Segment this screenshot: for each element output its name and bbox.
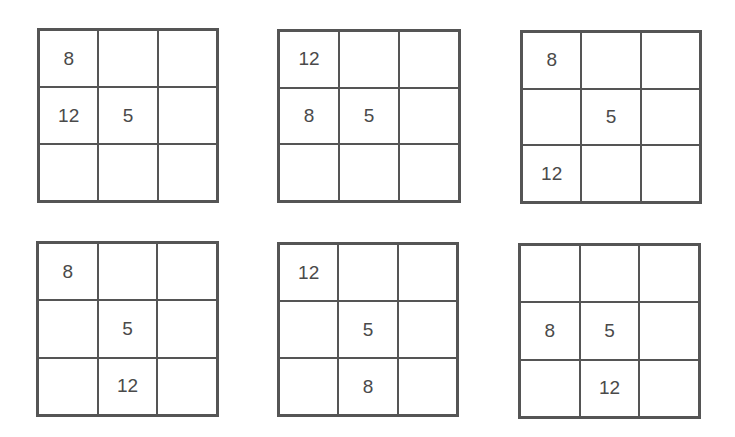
grid-cell — [639, 245, 699, 302]
grid-cell — [399, 88, 459, 145]
grid-cell: 12 — [580, 360, 640, 417]
grid-cell: 5 — [98, 300, 158, 357]
grid-cell: 12 — [98, 358, 158, 415]
grid-cell: 12 — [279, 31, 339, 88]
grid-cell — [399, 144, 459, 201]
grid-cell — [639, 302, 699, 359]
grid-cell — [520, 245, 580, 302]
grid-cell: 5 — [339, 88, 399, 145]
grid-cell: 8 — [520, 302, 580, 359]
grid-cell: 5 — [580, 302, 640, 359]
grid-1: 8125 — [37, 28, 219, 203]
grid-cell — [157, 243, 217, 300]
grid-cell — [522, 89, 581, 146]
grid-3: 8512 — [520, 30, 702, 204]
grid-5: 1258 — [277, 242, 459, 417]
grid-cell: 5 — [338, 301, 397, 358]
grid-6: 8512 — [518, 243, 701, 419]
grid-cell — [279, 144, 339, 201]
grid-cell — [339, 144, 399, 201]
grid-cell — [639, 360, 699, 417]
grid-cell: 8 — [279, 88, 339, 145]
grid-cell — [339, 31, 399, 88]
grid-cell — [98, 144, 157, 201]
grid-cell — [98, 30, 157, 87]
grid-cell — [641, 32, 700, 89]
grid-cell — [398, 358, 457, 415]
grid-cell — [158, 87, 217, 144]
grid-4: 8512 — [36, 241, 219, 417]
grid-cell: 8 — [522, 32, 581, 89]
grid-cell — [641, 89, 700, 146]
grid-cell: 8 — [38, 243, 98, 300]
grid-cell: 8 — [39, 30, 98, 87]
grid-cell — [279, 301, 338, 358]
grid-cell — [641, 145, 700, 202]
grid-cell — [38, 358, 98, 415]
grid-cell — [158, 144, 217, 201]
grid-cell — [520, 360, 580, 417]
grid-cell — [38, 300, 98, 357]
grid-cell — [399, 31, 459, 88]
grid-cell — [581, 145, 640, 202]
grid-cell: 5 — [98, 87, 157, 144]
grid-cell: 12 — [522, 145, 581, 202]
grid-cell — [338, 244, 397, 301]
grid-cell: 5 — [581, 89, 640, 146]
grid-cell — [580, 245, 640, 302]
grid-cell: 8 — [338, 358, 397, 415]
grid-cell: 12 — [39, 87, 98, 144]
grid-cell: 12 — [279, 244, 338, 301]
grid-cell — [98, 243, 158, 300]
grid-cell — [39, 144, 98, 201]
grid-cell — [581, 32, 640, 89]
grid-cell — [398, 244, 457, 301]
grid-cell — [157, 358, 217, 415]
grid-cell — [398, 301, 457, 358]
grid-cell — [157, 300, 217, 357]
grid-2: 1285 — [277, 29, 461, 203]
grid-cell — [158, 30, 217, 87]
grid-cell — [279, 358, 338, 415]
